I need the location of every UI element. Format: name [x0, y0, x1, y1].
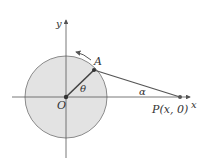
- point-a-label: A: [93, 55, 102, 68]
- alpha-label: α: [139, 86, 146, 97]
- theta-label: θ: [80, 83, 86, 94]
- point-a: [92, 68, 96, 72]
- point-p-label: P(x, 0): [151, 103, 188, 116]
- y-axis-label: y: [55, 18, 62, 29]
- point-p: [178, 95, 182, 99]
- origin-label: O: [57, 99, 66, 112]
- x-axis-label: x: [191, 99, 197, 110]
- crank-diagram: y x O A θ α P(x, 0): [0, 0, 201, 162]
